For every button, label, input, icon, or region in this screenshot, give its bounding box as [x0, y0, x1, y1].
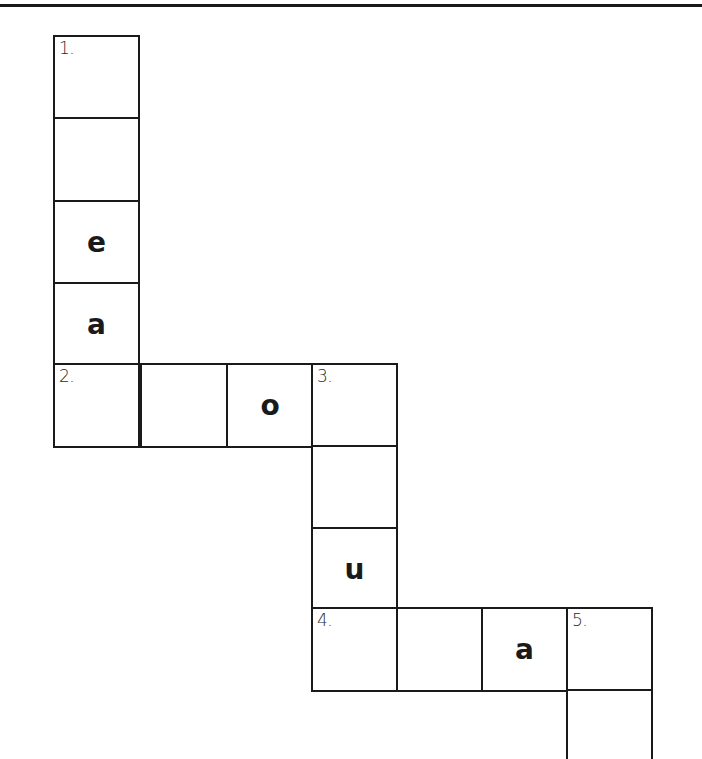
clue-number: 5.: [572, 610, 587, 630]
clue-number: 4.: [317, 610, 332, 630]
crossword-cell[interactable]: [53, 117, 140, 202]
crossword-cell[interactable]: [396, 607, 483, 692]
cell-letter: a: [483, 632, 566, 665]
crossword-cell[interactable]: 5.: [566, 607, 653, 692]
crossword-cell[interactable]: 4.: [311, 607, 398, 692]
crossword-cell[interactable]: 2.: [53, 363, 140, 448]
cell-letter: u: [313, 552, 396, 585]
clue-number: 1.: [59, 38, 74, 58]
cell-letter: a: [55, 307, 138, 340]
crossword-cell[interactable]: [566, 689, 653, 759]
crossword-cell[interactable]: u: [311, 527, 398, 612]
clue-number: 2.: [59, 366, 74, 386]
top-divider: [0, 4, 702, 7]
cell-letter: e: [55, 225, 138, 258]
crossword-cell[interactable]: [311, 445, 398, 530]
crossword-cell[interactable]: o: [226, 363, 314, 448]
cell-letter: o: [228, 388, 312, 421]
crossword-cell[interactable]: e: [53, 200, 140, 285]
clue-number: 3.: [317, 366, 332, 386]
crossword-cell[interactable]: a: [481, 607, 568, 692]
crossword-cell[interactable]: 3.: [311, 363, 398, 448]
crossword-cell[interactable]: 1.: [53, 35, 140, 120]
crossword-cell[interactable]: a: [53, 282, 140, 367]
crossword-cell[interactable]: [140, 363, 228, 448]
